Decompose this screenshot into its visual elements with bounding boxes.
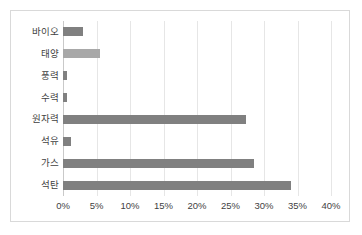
bar-series (63, 21, 331, 196)
bar-solar (63, 49, 100, 58)
category-label: 바이오 (11, 27, 59, 37)
x-axis-labels: 0%5%10%15%20%25%30%35%40% (63, 201, 331, 217)
bar-oil (63, 137, 71, 146)
plot-area (63, 21, 331, 196)
bar-row (63, 174, 331, 196)
x-tick-label: 10% (120, 201, 139, 211)
x-tick-label: 15% (154, 201, 173, 211)
category-label: 석탄 (11, 180, 59, 190)
bar-coal (63, 181, 291, 190)
category-label: 원자력 (11, 114, 59, 124)
gridline (331, 21, 332, 196)
bar-row (63, 21, 331, 43)
chart-frame: 바이오 태양 풍력 수력 원자력 석유 가스 석탄 0%5%10%15%20%2… (10, 10, 350, 222)
x-tick-label: 40% (321, 201, 340, 211)
x-tick-label: 5% (90, 201, 104, 211)
bar-gas (63, 159, 254, 168)
category-label: 수력 (11, 93, 59, 103)
bar-hydro (63, 93, 67, 102)
bar-nuclear (63, 115, 246, 124)
x-tick-label: 35% (288, 201, 307, 211)
category-label: 태양 (11, 49, 59, 59)
bar-row (63, 152, 331, 174)
bar-row (63, 130, 331, 152)
category-label: 가스 (11, 158, 59, 168)
x-tick-label: 30% (254, 201, 273, 211)
x-tick-label: 0% (56, 201, 70, 211)
bar-row (63, 87, 331, 109)
bar-row (63, 109, 331, 131)
bar-row (63, 43, 331, 65)
bar-bio (63, 27, 83, 36)
category-axis-labels: 바이오 태양 풍력 수력 원자력 석유 가스 석탄 (11, 21, 59, 196)
category-label: 석유 (11, 136, 59, 146)
category-label: 풍력 (11, 71, 59, 81)
bar-row (63, 65, 331, 87)
bar-wind (63, 71, 67, 80)
x-tick-label: 20% (187, 201, 206, 211)
x-tick-label: 25% (221, 201, 240, 211)
